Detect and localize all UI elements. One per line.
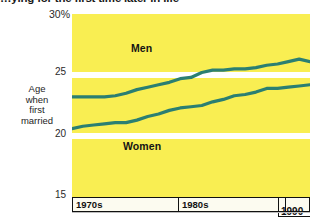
y-axis-title: Age when first married: [6, 84, 68, 126]
y-axis-tick-25: 25: [32, 67, 66, 77]
series-label-women: Women: [123, 140, 161, 152]
series-line-men: [72, 59, 310, 97]
series-label-men: Men: [131, 42, 152, 54]
series-line-women: [72, 85, 310, 129]
chart-screenshot: …ying for the first time later in life A…: [0, 0, 310, 217]
x-axis: 1970s 1980s 1990: [72, 197, 310, 212]
y-axis-tick-15: 15: [32, 190, 66, 200]
y-axis-title-line-1: Age: [6, 84, 68, 95]
x-axis-box-1980s: 1980s: [178, 197, 285, 212]
y-axis-tick-30: 30%: [30, 9, 70, 19]
y-axis-tick-20: 20: [32, 129, 66, 139]
x-axis-box-1970s: 1970s: [72, 197, 178, 212]
chart-title: …ying for the first time later in life: [0, 0, 215, 5]
series-lines: [72, 59, 310, 129]
plot-canvas: [72, 14, 310, 197]
x-axis-bottom-rule: [72, 212, 310, 213]
plot-area: [72, 14, 310, 197]
gridline: [72, 133, 310, 139]
y-axis-title-line-4: married: [6, 116, 68, 127]
